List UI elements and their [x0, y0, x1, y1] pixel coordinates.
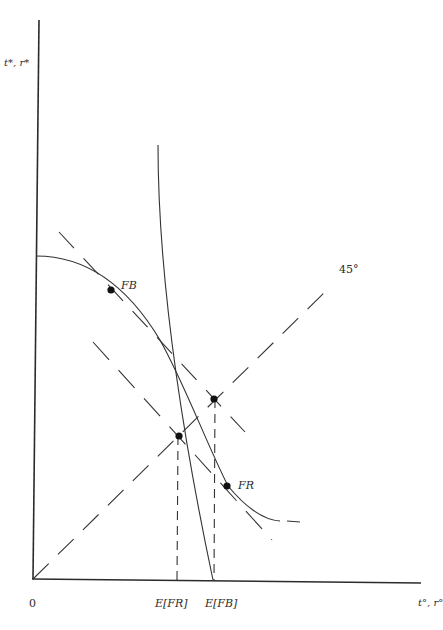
forty-five-degree-line [33, 287, 330, 579]
x-tick-efr: E[FR] [155, 598, 188, 609]
x-tick-efb: E[FB] [205, 598, 237, 609]
reaction-curve [158, 145, 213, 580]
point-label-fr: FR [238, 480, 254, 491]
y-axis-label: t*, r* [4, 58, 29, 68]
point-label-fb: FB [121, 280, 137, 291]
forty-five-degree-label: 45° [339, 264, 359, 275]
point-intersection-high [210, 395, 217, 402]
point-fb [107, 286, 114, 293]
frontier-curve-dashed-tail [287, 521, 300, 522]
point-intersection-low [175, 432, 182, 439]
x-axis [32, 579, 421, 583]
lower-tangent-line [93, 342, 272, 540]
origin-label: 0 [29, 598, 36, 609]
y-axis [33, 20, 39, 579]
upper-tangent-line [59, 232, 245, 432]
drop-line-efb [214, 399, 215, 581]
drop-line-efr [177, 436, 178, 580]
point-fr [223, 482, 230, 489]
x-axis-label: t°, r° [418, 598, 443, 608]
